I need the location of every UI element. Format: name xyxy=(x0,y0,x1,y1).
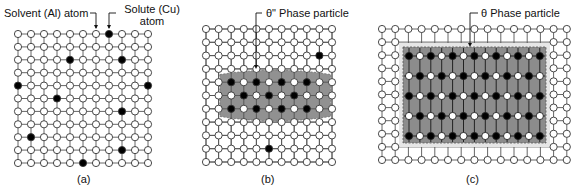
solvent-atom xyxy=(303,132,310,139)
solvent-atom xyxy=(536,72,543,79)
solute-atom xyxy=(449,52,456,59)
solute-atom xyxy=(265,92,272,99)
solvent-atom xyxy=(27,95,34,102)
solvent-atom xyxy=(493,72,500,79)
solute-atom xyxy=(53,95,60,102)
solvent-atom xyxy=(471,156,478,163)
solvent-atom xyxy=(228,132,235,139)
solvent-atom xyxy=(27,108,34,115)
solvent-atom xyxy=(265,158,272,165)
solvent-atom xyxy=(202,65,209,72)
solvent-atom xyxy=(378,156,385,163)
solute-atom xyxy=(79,159,86,166)
solvent-atom xyxy=(378,143,385,150)
solvent-atom xyxy=(449,112,456,119)
solvent-atom xyxy=(316,65,323,72)
solvent-atom xyxy=(460,132,467,139)
solvent-atom xyxy=(118,95,125,102)
solvent-atom xyxy=(316,79,323,86)
solute-atom xyxy=(514,132,521,139)
solvent-atom xyxy=(460,52,467,59)
solute-atom xyxy=(27,134,34,141)
solvent-atom xyxy=(550,143,557,150)
solvent-atom xyxy=(144,134,151,141)
solvent-atom xyxy=(328,132,335,139)
solute-atom xyxy=(416,72,423,79)
solvent-atom xyxy=(253,132,260,139)
solute-atom-label-line1: Solute (Cu) xyxy=(121,3,183,15)
solvent-atom xyxy=(563,117,570,124)
solvent-atom xyxy=(427,112,434,119)
solvent-atom xyxy=(14,56,21,63)
solute-atom xyxy=(240,92,247,99)
solvent-atom xyxy=(53,30,60,37)
solvent-atom xyxy=(14,121,21,128)
solvent-atom xyxy=(40,121,47,128)
solute-atom xyxy=(449,92,456,99)
solvent-atom xyxy=(316,132,323,139)
solvent-atom xyxy=(416,132,423,139)
solvent-atom xyxy=(427,72,434,79)
solvent-atom xyxy=(118,30,125,37)
solvent-atom xyxy=(27,69,34,76)
solvent-atom xyxy=(482,132,489,139)
solute-atom xyxy=(265,145,272,152)
solvent-atom xyxy=(278,65,285,72)
solvent-atom xyxy=(563,25,570,32)
solvent-atom xyxy=(316,92,323,99)
solvent-atom xyxy=(215,119,222,126)
solvent-atom xyxy=(14,69,21,76)
solvent-atom xyxy=(278,92,285,99)
solvent-atom xyxy=(144,56,151,63)
solvent-atom xyxy=(27,43,34,50)
solvent-atom xyxy=(563,39,570,46)
solvent-atom xyxy=(92,108,99,115)
solvent-atom xyxy=(53,108,60,115)
arrowhead-icon xyxy=(107,25,111,29)
solvent-atom xyxy=(563,130,570,137)
solvent-atom xyxy=(40,159,47,166)
solvent-atom xyxy=(265,79,272,86)
solvent-atom xyxy=(303,52,310,59)
solvent-atom xyxy=(144,108,151,115)
solvent-atom xyxy=(14,159,21,166)
solvent-atom xyxy=(471,25,478,32)
solvent-atom xyxy=(497,156,504,163)
solvent-atom xyxy=(537,156,544,163)
solvent-atom xyxy=(405,72,412,79)
solvent-atom xyxy=(278,158,285,165)
precipitation-diagram xyxy=(0,0,572,191)
solvent-atom xyxy=(79,134,86,141)
solvent-atom xyxy=(202,52,209,59)
solute-atom xyxy=(438,72,445,79)
solvent-atom xyxy=(392,52,399,59)
solvent-atom xyxy=(118,134,125,141)
solvent-atom xyxy=(118,82,125,89)
solute-atom xyxy=(427,132,434,139)
theta-phase-label: θ Phase particle xyxy=(481,7,560,19)
solvent-atom xyxy=(215,158,222,165)
solvent-atom xyxy=(493,112,500,119)
solvent-atom xyxy=(53,69,60,76)
solvent-atom xyxy=(79,121,86,128)
solvent-atom xyxy=(328,119,335,126)
solvent-atom xyxy=(240,105,247,112)
solvent-atom xyxy=(265,132,272,139)
solvent-atom xyxy=(79,56,86,63)
solvent-atom xyxy=(524,25,531,32)
solvent-atom xyxy=(328,25,335,32)
solvent-atom xyxy=(550,130,557,137)
solvent-atom xyxy=(378,78,385,85)
solvent-atom xyxy=(550,52,557,59)
solvent-atom xyxy=(53,121,60,128)
solvent-atom xyxy=(316,105,323,112)
solvent-atom xyxy=(392,104,399,111)
solvent-atom xyxy=(405,112,412,119)
solvent-atom xyxy=(105,147,112,154)
solute-atom xyxy=(493,52,500,59)
solvent-atom xyxy=(66,159,73,166)
solvent-atom xyxy=(40,30,47,37)
solvent-atom xyxy=(131,82,138,89)
solvent-atom xyxy=(53,56,60,63)
solvent-atom xyxy=(131,56,138,63)
